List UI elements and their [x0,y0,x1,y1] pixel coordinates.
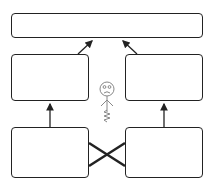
sad-stick-figure-icon [100,82,114,122]
arrow-middle-left-to-top [78,41,92,54]
cross-lines [89,143,125,166]
arrow-middle-right-to-top [123,41,137,54]
connectors-layer [0,0,217,188]
